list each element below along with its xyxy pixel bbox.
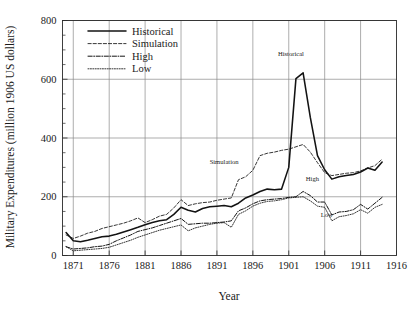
annotation-high: High — [306, 175, 320, 182]
x-axis-title: Year — [218, 290, 239, 302]
legend-label-simulation: Simulation — [132, 38, 179, 49]
y-tick-label-400: 400 — [41, 133, 57, 144]
x-tick-label-1906: 1906 — [314, 260, 335, 271]
annotation-historical: Historical — [278, 50, 304, 57]
x-tick-label-1881: 1881 — [135, 260, 156, 271]
y-axis-title: Military Expenditures (million 1906 US d… — [4, 26, 17, 249]
x-tick-label-1916: 1916 — [386, 260, 407, 271]
military-expenditures-line-chart: 0200400600800187118761881188618911896190… — [0, 0, 419, 316]
y-tick-label-600: 600 — [41, 74, 57, 85]
legend-label-low: Low — [132, 63, 152, 74]
x-tick-label-1886: 1886 — [171, 260, 192, 271]
legend-label-high: High — [132, 51, 154, 62]
x-tick-label-1901: 1901 — [278, 260, 299, 271]
annotation-low: Low — [321, 211, 333, 218]
y-tick-label-200: 200 — [41, 191, 57, 202]
legend-label-historical: Historical — [132, 26, 173, 37]
x-tick-label-1911: 1911 — [350, 260, 371, 271]
x-tick-label-1871: 1871 — [63, 260, 84, 271]
y-tick-label-800: 800 — [41, 15, 57, 26]
x-tick-label-1876: 1876 — [99, 260, 120, 271]
annotation-simulation: Simulation — [210, 158, 240, 165]
chart-figure: 0200400600800187118761881188618911896190… — [0, 0, 419, 316]
x-tick-label-1891: 1891 — [206, 260, 227, 271]
x-tick-label-1896: 1896 — [242, 260, 263, 271]
y-tick-label-0: 0 — [51, 250, 56, 261]
